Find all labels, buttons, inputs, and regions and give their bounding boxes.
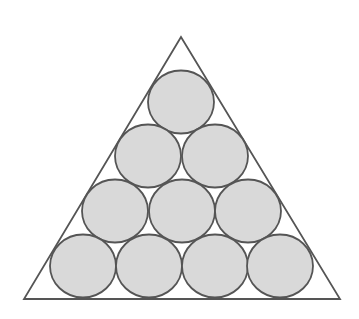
triangle-circle-packing-diagram	[0, 0, 359, 319]
circle-group	[50, 71, 313, 298]
circle-row4-3	[182, 235, 248, 298]
circle-row4-2	[116, 235, 182, 298]
circle-row2-1	[115, 125, 181, 188]
circle-row4-4	[247, 235, 313, 298]
circle-row4-1	[50, 235, 116, 298]
circle-row3-2	[149, 180, 215, 243]
circle-row1-1	[148, 71, 214, 134]
circle-row3-3	[215, 180, 281, 243]
circle-row2-2	[182, 125, 248, 188]
circle-row3-1	[82, 180, 148, 243]
